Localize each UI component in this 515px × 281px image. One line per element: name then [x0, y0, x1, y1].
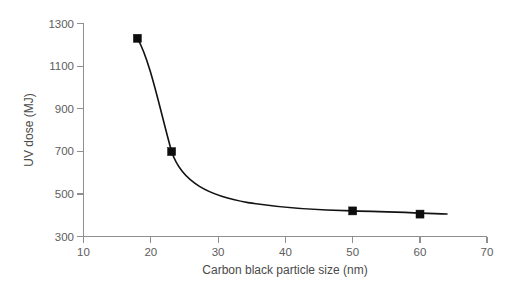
data-point-marker [168, 148, 176, 156]
x-axis-title: Carbon black particle size (nm) [202, 263, 367, 277]
x-tick-label-20: 20 [144, 246, 157, 258]
x-tick-label-50: 50 [346, 246, 359, 258]
x-tick-label-60: 60 [414, 246, 427, 258]
data-point-marker [416, 210, 424, 218]
x-tick-label-40: 40 [279, 246, 292, 258]
y-axis-title: UV dose (MJ) [22, 93, 36, 166]
x-tick-label-70: 70 [481, 246, 494, 258]
y-tick-label-1100: 1100 [49, 60, 74, 72]
y-tick-label-1300: 1300 [48, 18, 74, 30]
x-tick-label-10: 10 [77, 246, 90, 258]
x-tick-label-30: 30 [212, 246, 225, 258]
y-tick-label-300: 300 [55, 231, 74, 243]
y-tick-label-900: 900 [55, 103, 74, 115]
data-point-marker [349, 207, 357, 215]
chart-figure: 1300 1100 900 700 500 300 10 20 30 40 50… [0, 0, 515, 281]
data-point-marker [133, 34, 141, 42]
uv-dose-vs-particle-size-chart: 1300 1100 900 700 500 300 10 20 30 40 50… [0, 0, 515, 281]
y-tick-label-500: 500 [55, 188, 74, 200]
chart-background [0, 0, 515, 281]
y-tick-label-700: 700 [55, 145, 74, 157]
